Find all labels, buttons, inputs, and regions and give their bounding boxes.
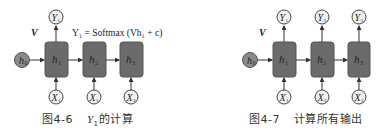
input-x2: X 2 <box>87 78 101 104</box>
svg-text:2: 2 <box>95 60 98 66</box>
input-x1: X 1 <box>49 78 63 104</box>
svg-text:h: h <box>19 55 24 66</box>
output-y2: Y 2 <box>315 10 329 42</box>
svg-text:0: 0 <box>253 60 256 66</box>
svg-text:3: 3 <box>132 60 135 66</box>
svg-text:1: 1 <box>58 60 61 66</box>
hidden-state-h2: h 2 <box>83 42 106 77</box>
input-x3: X 3 <box>352 78 366 104</box>
figure-caption: 图4-6Y1的计算 <box>42 110 133 128</box>
figure-4-7: h 0 h 1 h 2 h 3 X 1 X <box>190 0 379 133</box>
figure-4-6: h 0 h 1 h 2 h 3 X 1 <box>0 0 190 133</box>
input-x2: X 2 <box>315 78 329 104</box>
svg-text:3: 3 <box>360 60 363 66</box>
weight-label-v: V <box>31 27 39 38</box>
initial-state-node: h 0 <box>15 53 30 68</box>
svg-text:h: h <box>247 55 252 66</box>
output-y1: Y 1 <box>277 10 291 42</box>
svg-text:1: 1 <box>285 60 288 66</box>
hidden-state-h3: h 3 <box>120 42 143 77</box>
input-x3: X 3 <box>124 78 138 104</box>
hidden-state-h3: h 3 <box>348 42 370 77</box>
hidden-state-h1: h 1 <box>45 42 68 77</box>
hidden-state-h1: h 1 <box>273 42 296 77</box>
softmax-formula: Y₁ = Softmax (Vh₁ + c) <box>72 28 162 39</box>
figure-caption: 图4-7计算所有输出 <box>249 110 363 126</box>
initial-state-node: h 0 <box>243 53 258 68</box>
hidden-state-h2: h 2 <box>311 42 334 77</box>
output-y3: Y 3 <box>352 10 366 42</box>
svg-text:2: 2 <box>323 60 326 66</box>
svg-text:0: 0 <box>25 60 28 66</box>
input-x1: X 1 <box>277 78 291 104</box>
weight-label-v: V <box>259 27 267 38</box>
output-y1: Y 1 <box>49 10 63 42</box>
